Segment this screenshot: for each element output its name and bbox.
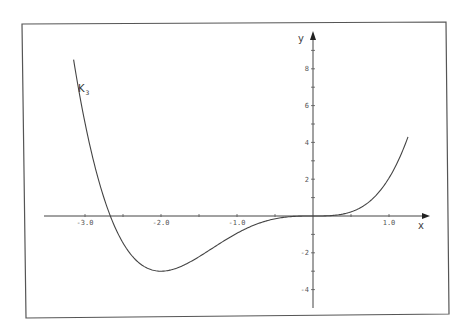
curve-label-sub: 3 [86,89,90,96]
x-tick-label: -2.0 [153,219,170,227]
chart-frame [22,22,449,318]
y-tick-label: 4 [305,139,309,147]
y-tick-label: 6 [305,102,309,110]
chart: -3.0-2.0-1.01.08642-2-4 x y K3 [0,0,468,333]
curve-k3 [74,60,408,272]
x-axis-label: x [418,220,424,231]
y-axis-label: y [298,33,304,44]
x-tick-label: -3.0 [77,219,94,227]
curve-label-main: K [78,83,85,94]
x-tick-label: -1.0 [229,219,246,227]
tick-labels: -3.0-2.0-1.01.08642-2-4 [77,65,396,294]
x-axis-arrow-icon [422,213,430,219]
axes [44,31,430,308]
y-tick-label: -2 [301,249,309,257]
x-tick-label: 1.0 [383,219,396,227]
y-tick-label: 8 [305,65,309,73]
y-tick-label: -4 [301,286,309,294]
y-axis-arrow-icon [310,31,316,40]
y-tick-label: 2 [305,176,309,184]
